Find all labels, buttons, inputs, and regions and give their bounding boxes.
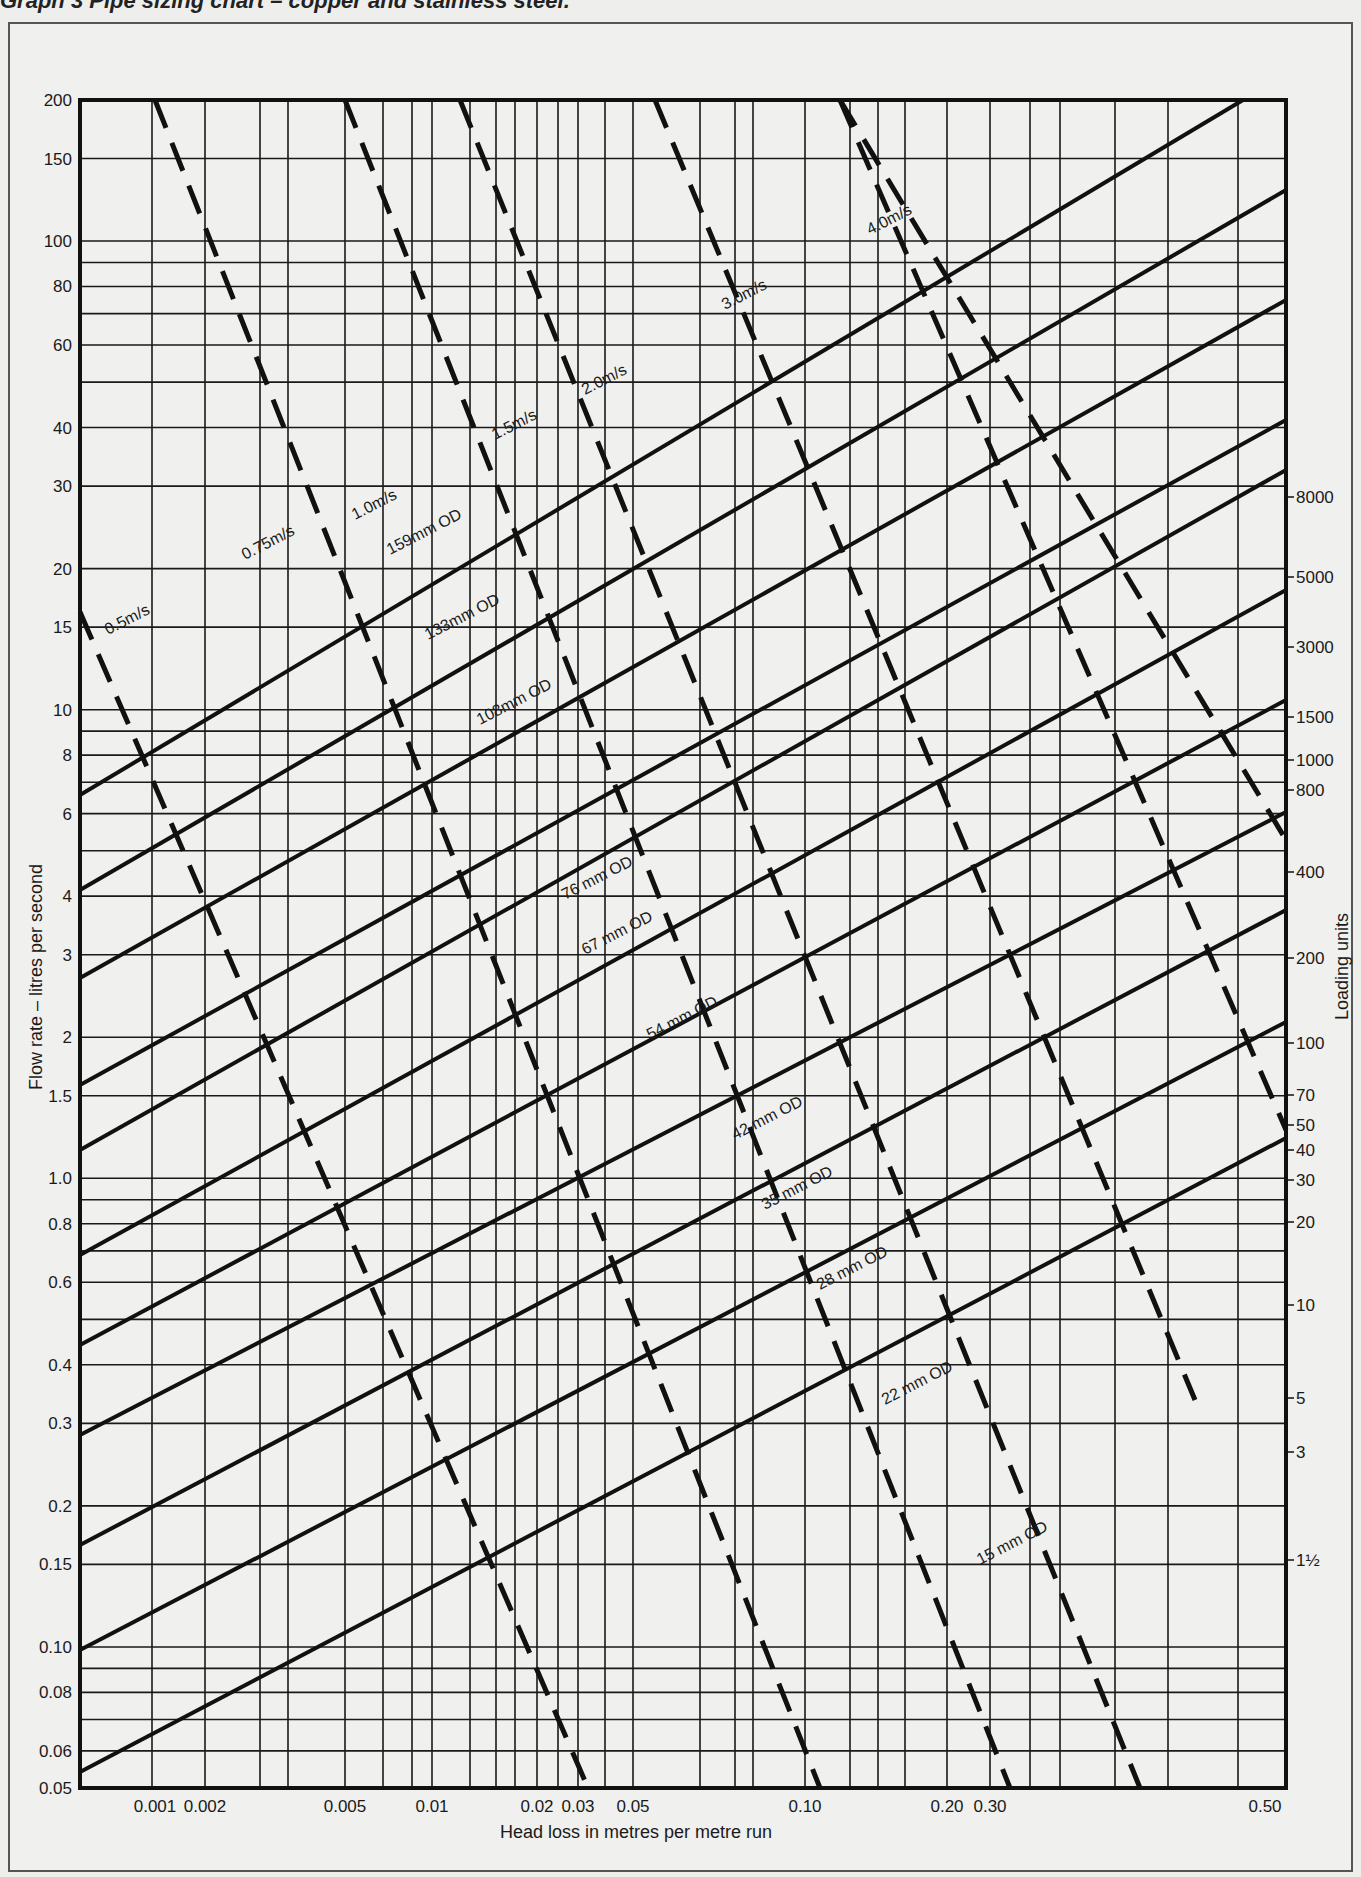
velocity-label: 4.0m/s [864,201,915,238]
x-tick-label: 0.03 [561,1797,594,1816]
velocity-label: 2.0m/s [579,361,630,398]
y-tick-label: 2 [63,1028,72,1047]
y-tick-label: 0.06 [39,1742,72,1761]
pipe-line [80,1138,1286,1772]
pipe-line [80,1022,1286,1650]
y2-tick-label: 50 [1296,1116,1315,1135]
y-tick-label: 6 [63,805,72,824]
y-tick-label: 0.05 [39,1779,72,1798]
x-tick-label: 0.01 [415,1797,448,1816]
y-tick-label: 8 [63,746,72,765]
pipe-sizing-chart: 20015010080604030201510864321.51.00.80.6… [0,0,1361,1877]
y-tick-label: 30 [53,477,72,496]
y2-tick-label: 5 [1296,1389,1305,1408]
pipe-line [80,910,1286,1545]
y-tick-label: 0.10 [39,1638,72,1657]
horizontal-gridlines [80,159,1286,1751]
y-tick-label: 100 [44,232,72,251]
y-tick-label: 4 [63,887,72,906]
velocity-label: 0.5m/s [102,601,153,638]
velocity-label: 3.0m/s [719,276,770,313]
y2-tick-label: 100 [1296,1034,1324,1053]
y-tick-label: 40 [53,419,72,438]
y2-tick-label: 200 [1296,949,1324,968]
x-tick-label: 0.30 [973,1797,1006,1816]
y2-tick-label: 1½ [1296,1551,1320,1570]
x-tick-label: 0.02 [520,1797,553,1816]
y-tick-label: 0.8 [48,1215,72,1234]
y-tick-label: 0.15 [39,1555,72,1574]
y-tick-label: 15 [53,618,72,637]
y2-tick-label: 3 [1296,1443,1305,1462]
pipe-line [80,100,1243,795]
pipe-label: 133mm OD [422,590,503,642]
vertical-gridlines [152,100,1238,1788]
velocity-label: 1.0m/s [349,486,400,523]
y-tick-label: 0.4 [48,1356,72,1375]
x-axis-tick-labels: 0.0010.0020.0050.010.020.030.050.100.200… [134,1797,1282,1816]
x-tick-label: 0.005 [324,1797,367,1816]
y2-axis-tick-labels: 8000500030001500100080040020010070504030… [1286,488,1334,1570]
y-tick-label: 0.08 [39,1683,72,1702]
y-tick-label: 10 [53,701,72,720]
pipe-label: 15 mm OD [974,1517,1051,1567]
plot-border [80,100,1286,1788]
pipe-line [80,590,1286,1255]
y-tick-label: 150 [44,150,72,169]
pipe-size-lines [80,100,1286,1772]
pipe-label: 159mm OD [384,505,465,557]
x-tick-label: 0.002 [184,1797,227,1816]
pipe-line [80,470,1286,1150]
y-tick-label: 60 [53,336,72,355]
y2-tick-label: 10 [1296,1296,1315,1315]
y-tick-label: 0.2 [48,1497,72,1516]
y-tick-label: 80 [53,277,72,296]
x-tick-label: 0.50 [1248,1797,1281,1816]
y-tick-label: 1.0 [48,1169,72,1188]
y2-tick-label: 400 [1296,863,1324,882]
x-tick-label: 0.10 [788,1797,821,1816]
pipe-line [80,420,1286,1085]
velocity-lines [80,100,1286,1788]
x-tick-label: 0.05 [616,1797,649,1816]
velocity-line [155,100,820,1788]
pipe-line [80,300,1286,978]
y2-tick-label: 30 [1296,1171,1315,1190]
y2-tick-label: 5000 [1296,568,1334,587]
y2-axis-title: Loading units [1332,913,1352,1020]
y2-tick-label: 1500 [1296,708,1334,727]
y2-tick-label: 1000 [1296,751,1334,770]
y2-tick-label: 20 [1296,1213,1315,1232]
y2-tick-label: 800 [1296,781,1324,800]
y-axis-title: Flow rate – litres per second [26,864,46,1090]
y-tick-label: 1.5 [48,1087,72,1106]
y-tick-label: 0.3 [48,1414,72,1433]
velocity-line [840,100,1286,1130]
y2-tick-label: 70 [1296,1086,1315,1105]
y-tick-label: 0.6 [48,1273,72,1292]
x-axis-title: Head loss in metres per metre run [500,1822,772,1842]
y-tick-label: 200 [44,91,72,110]
y-tick-label: 3 [63,946,72,965]
y2-tick-label: 3000 [1296,638,1334,657]
pipe-label: 35 mm OD [759,1162,836,1212]
x-tick-label: 0.001 [134,1797,177,1816]
x-tick-label: 0.20 [930,1797,963,1816]
y2-tick-label: 40 [1296,1141,1315,1160]
pipe-line [80,812,1286,1435]
pipe-label: 67 mm OD [579,907,656,957]
y2-tick-label: 8000 [1296,488,1334,507]
y-tick-label: 20 [53,560,72,579]
